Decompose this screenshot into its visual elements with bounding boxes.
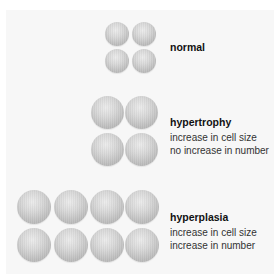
cell-icon [90, 228, 124, 262]
cell-icon [91, 96, 124, 129]
cell-icon [125, 133, 158, 166]
cell-icon [125, 228, 159, 262]
hyperplasia-title: hyperplasia [170, 211, 257, 223]
cell-icon [90, 190, 124, 224]
hyperplasia-line-1: increase in cell size [170, 226, 257, 239]
cell-icon [54, 228, 88, 262]
hyperplasia-line-2: increase in number [170, 239, 257, 252]
cell-icon [132, 22, 156, 46]
normal-title: normal [170, 41, 205, 53]
hyperplasia-label: hyperplasia increase in cell size increa… [170, 211, 257, 252]
cell-icon [125, 190, 159, 224]
cell-icon [17, 228, 51, 262]
cell-icon [91, 133, 124, 166]
cell-icon [105, 22, 129, 46]
cell-icon [54, 190, 88, 224]
hypertrophy-line-1: increase in cell size [170, 131, 269, 144]
hypertrophy-label: hypertrophy increase in cell size no inc… [170, 116, 269, 157]
hypertrophy-title: hypertrophy [170, 116, 269, 128]
cell-icon [17, 190, 51, 224]
cell-icon [105, 49, 129, 73]
cell-icon [132, 49, 156, 73]
cell-icon [125, 96, 158, 129]
hypertrophy-line-2: no increase in number [170, 144, 269, 157]
